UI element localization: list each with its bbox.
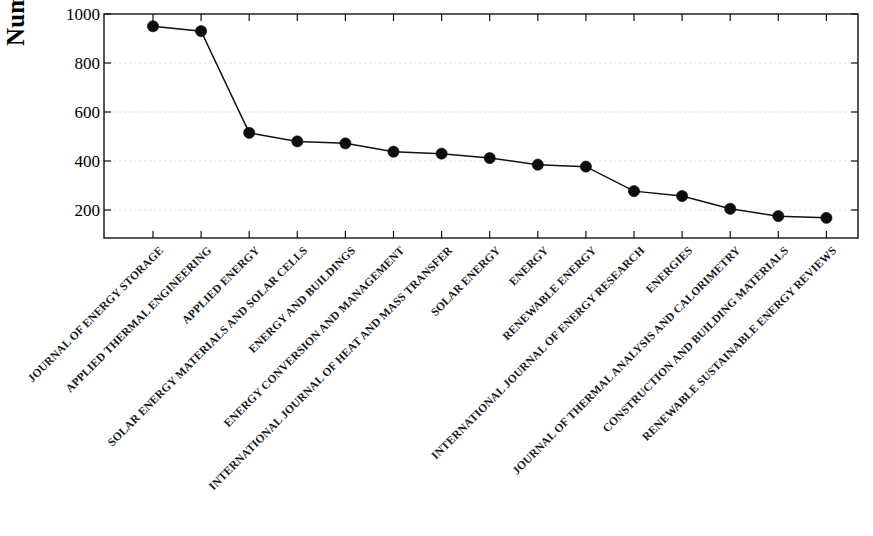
series-line <box>153 26 826 218</box>
data-point: APPLIED THERMAL ENGINEERING: 930 <box>196 26 207 37</box>
y-tick-label-600: 600 <box>42 104 100 121</box>
data-point: INTERNATIONAL JOURNAL OF HEAT AND MASS T… <box>436 148 447 159</box>
data-point: JOURNAL OF THERMAL ANALYSIS AND CALORIME… <box>725 203 736 214</box>
gridlines <box>104 63 858 210</box>
data-point: SOLAR ENERGY: 412 <box>484 152 495 163</box>
axis-ticks <box>104 14 858 238</box>
data-point: INTERNATIONAL JOURNAL OF ENERGY RESEARCH… <box>628 186 639 197</box>
data-point: RENEWABLE ENERGY: 377 <box>580 161 591 172</box>
data-point: ENERGY CONVERSION AND MANAGEMENT: 438 <box>388 146 399 157</box>
y-tick-label-1000: 1000 <box>42 6 100 23</box>
y-axis-title: Number of Publication <box>2 0 36 46</box>
data-point: APPLIED ENERGY: 515 <box>244 127 255 138</box>
data-point: ENERGY: 385 <box>532 159 543 170</box>
y-tick-label-800: 800 <box>42 55 100 72</box>
y-axis-tick-labels: 1000 800 600 400 200 <box>40 0 100 536</box>
data-point: ENERGIES: 257 <box>677 190 688 201</box>
data-point: ENERGY AND BUILDINGS: 472 <box>340 138 351 149</box>
data-point: CONSTRUCTION AND BUILDING MATERIALS: 175 <box>773 211 784 222</box>
data-point: RENEWABLE SUSTAINABLE ENERGY REVIEWS: 16… <box>821 212 832 223</box>
data-markers: JOURNAL OF ENERGY STORAGE: 950APPLIED TH… <box>147 21 832 224</box>
y-axis-title-wrapper: Number of Publication <box>6 10 40 242</box>
publication-count-chart: Number of Publication 1000 800 600 400 2… <box>0 0 873 536</box>
data-point: SOLAR ENERGY MATERIALS AND SOLAR CELLS: … <box>292 136 303 147</box>
y-tick-label-200: 200 <box>42 202 100 219</box>
data-point: JOURNAL OF ENERGY STORAGE: 950 <box>147 21 158 32</box>
plot-frame <box>104 14 858 238</box>
y-tick-label-400: 400 <box>42 153 100 170</box>
